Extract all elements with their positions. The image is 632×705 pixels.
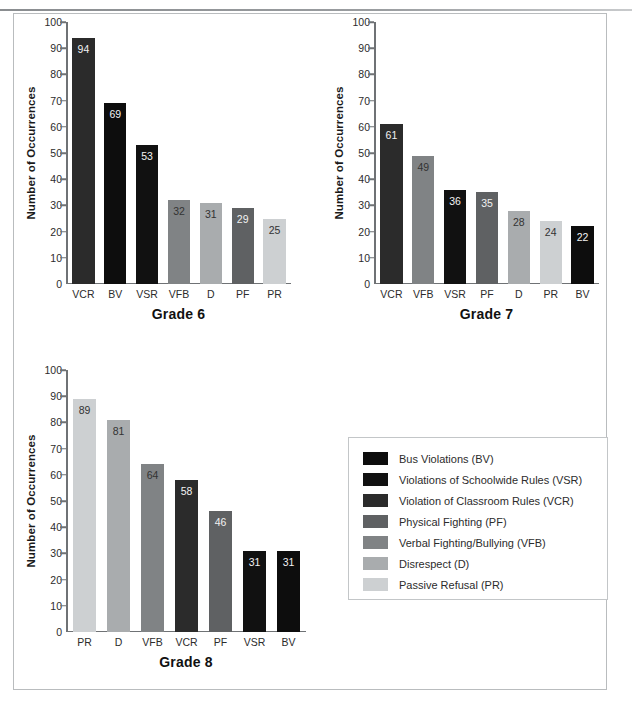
y-axis-label-grade-7: Number of Occurrences xyxy=(330,22,348,284)
x-axis-labels-grade-6: VCRBVVSRVFBDPFPR xyxy=(68,288,291,304)
y-tick-label: 0 xyxy=(56,278,62,290)
y-tick-mark xyxy=(368,152,374,154)
y-tick-mark xyxy=(60,605,66,607)
bar-d: 28 xyxy=(508,211,530,284)
legend-swatch-d xyxy=(363,557,388,570)
x-tick-label-d: D xyxy=(207,288,215,300)
y-tick-mark xyxy=(60,474,66,476)
x-tick-label-pr: PR xyxy=(543,288,558,300)
y-tick-mark xyxy=(60,553,66,555)
y-tick-mark xyxy=(368,21,374,23)
y-tick-mark xyxy=(368,231,374,233)
y-tick-mark xyxy=(60,21,66,23)
bar-value-label: 36 xyxy=(444,196,466,207)
top-divider-rule xyxy=(0,9,632,11)
x-tick-label-pf: PF xyxy=(236,288,249,300)
y-tick-label: 0 xyxy=(364,278,370,290)
x-tick-label-d: D xyxy=(515,288,523,300)
legend-label: Bus Violations (BV) xyxy=(399,453,494,465)
bar-vcr: 61 xyxy=(380,124,402,284)
chart-panel-grade-7: Number of Occurrences 010203040506070809… xyxy=(330,22,606,328)
bar-value-label: 53 xyxy=(136,151,158,162)
x-tick-label-vsr: VSR xyxy=(444,288,466,300)
y-tick-mark xyxy=(60,500,66,502)
legend-item-vcr[interactable]: Violation of Classroom Rules (VCR) xyxy=(363,493,574,508)
x-axis-labels-grade-7: VCRVFBVSRPFDPRBV xyxy=(376,288,599,304)
chart-legend: Bus Violations (BV)Violations of Schoolw… xyxy=(348,437,608,600)
bar-d: 31 xyxy=(200,203,222,284)
x-tick-label-vfb: VFB xyxy=(142,636,162,648)
legend-item-vsr[interactable]: Violations of Schoolwide Rules (VSR) xyxy=(363,472,582,487)
y-axis-label-grade-6: Number of Occurrences xyxy=(22,22,40,284)
legend-label: Disrespect (D) xyxy=(399,558,469,570)
plot-area-grade-6: 94695332312925 xyxy=(68,22,291,284)
bar-vsr: 36 xyxy=(444,190,466,284)
y-tick-mark xyxy=(60,126,66,128)
y-tick-mark xyxy=(368,178,374,180)
y-tick-mark xyxy=(368,257,374,259)
figure-root: Number of Occurrences 010203040506070809… xyxy=(0,0,632,705)
legend-item-pr[interactable]: Passive Refusal (PR) xyxy=(363,577,504,592)
y-tick-mark xyxy=(60,231,66,233)
chart-panel-grade-6: Number of Occurrences 010203040506070809… xyxy=(22,22,298,328)
bar-vfb: 64 xyxy=(141,464,165,632)
axis-grade-7: 61493635282422 xyxy=(374,22,599,284)
bar-value-label: 61 xyxy=(380,130,402,141)
y-tick-mark xyxy=(60,100,66,102)
x-axis-labels-grade-8: PRDVFBVCRPFVSRBV xyxy=(68,636,306,652)
bar-vsr: 31 xyxy=(243,551,267,632)
y-tick-mark xyxy=(60,47,66,49)
x-tick-label-vcr: VCR xyxy=(175,636,197,648)
legend-item-d[interactable]: Disrespect (D) xyxy=(363,556,469,571)
x-tick-label-bv: BV xyxy=(281,636,295,648)
x-tick-label-pr: PR xyxy=(77,636,92,648)
y-tick-mark xyxy=(60,579,66,581)
bar-value-label: 69 xyxy=(104,109,126,120)
legend-item-vfb[interactable]: Verbal Fighting/Bullying (VFB) xyxy=(363,535,546,550)
x-tick-label-d: D xyxy=(115,636,123,648)
plot-area-grade-8: 89816458463131 xyxy=(68,370,306,632)
y-tick-mark xyxy=(60,257,66,259)
bar-value-label: 29 xyxy=(232,214,254,225)
y-tick-mark xyxy=(60,152,66,154)
bar-value-label: 94 xyxy=(72,44,94,55)
x-tick-label-vfb: VFB xyxy=(413,288,433,300)
bar-value-label: 49 xyxy=(412,162,434,173)
bar-pr: 24 xyxy=(540,221,562,284)
legend-item-pf[interactable]: Physical Fighting (PF) xyxy=(363,514,507,529)
legend-swatch-pr xyxy=(363,578,388,591)
y-axis-label-grade-8: Number of Occurrences xyxy=(22,370,40,632)
bar-value-label: 25 xyxy=(263,225,285,236)
legend-label: Verbal Fighting/Bullying (VFB) xyxy=(399,537,546,549)
x-tick-label-vcr: VCR xyxy=(72,288,94,300)
bar-d: 81 xyxy=(107,420,131,632)
bar-vcr: 94 xyxy=(72,38,94,284)
bar-value-label: 32 xyxy=(168,206,190,217)
bar-value-label: 46 xyxy=(209,517,233,528)
y-tick-mark xyxy=(60,178,66,180)
legend-swatch-vsr xyxy=(363,473,388,486)
legend-label: Violations of Schoolwide Rules (VSR) xyxy=(399,474,582,486)
bar-value-label: 28 xyxy=(508,217,530,228)
y-tick-mark xyxy=(368,74,374,76)
x-tick-label-bv: BV xyxy=(576,288,590,300)
bar-value-label: 35 xyxy=(476,198,498,209)
bar-vsr: 53 xyxy=(136,145,158,284)
bar-value-label: 89 xyxy=(73,405,97,416)
legend-item-bv[interactable]: Bus Violations (BV) xyxy=(363,451,494,466)
axis-grade-8: 89816458463131 xyxy=(66,370,306,632)
plot-area-grade-7: 61493635282422 xyxy=(376,22,599,284)
x-tick-label-pf: PF xyxy=(480,288,493,300)
bar-value-label: 31 xyxy=(200,209,222,220)
y-tick-label: 0 xyxy=(56,626,62,638)
legend-label: Physical Fighting (PF) xyxy=(399,516,507,528)
chart-panel-grade-8: Number of Occurrences 010203040506070809… xyxy=(22,370,312,676)
bar-pf: 46 xyxy=(209,511,233,632)
y-tick-mark xyxy=(368,205,374,207)
bar-value-label: 31 xyxy=(277,557,301,568)
bar-bv: 69 xyxy=(104,103,126,284)
x-tick-label-pr: PR xyxy=(267,288,282,300)
axis-grade-6: 94695332312925 xyxy=(66,22,291,284)
x-tick-label-pf: PF xyxy=(214,636,227,648)
y-tick-mark xyxy=(60,74,66,76)
